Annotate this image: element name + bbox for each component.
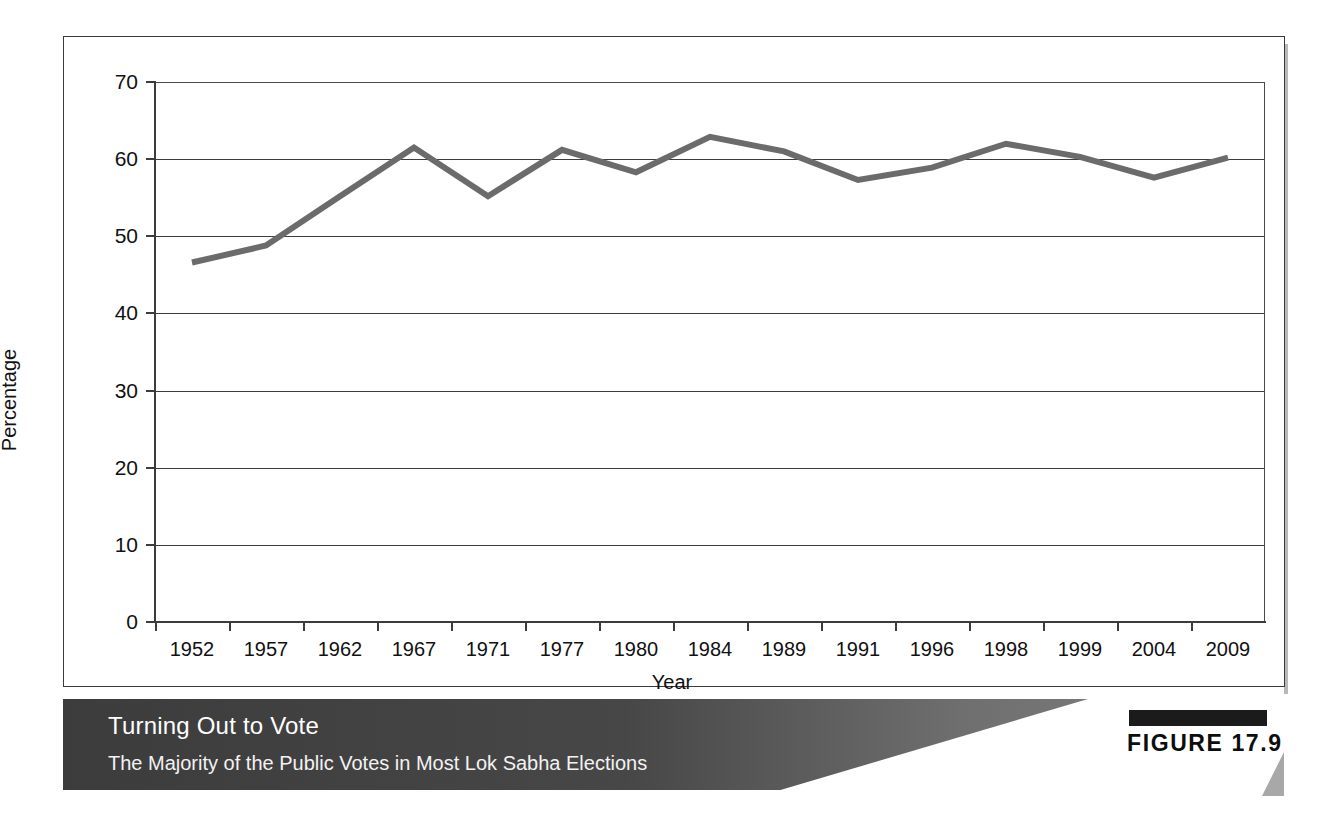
x-axis-tick-label: 1957 <box>226 638 306 661</box>
x-axis-tick-label: 1984 <box>670 638 750 661</box>
y-axis-tick-label: 0 <box>78 611 138 632</box>
y-axis-tick-label: 20 <box>78 457 138 478</box>
y-axis-tick <box>146 467 155 469</box>
figure-tag-shadow <box>1262 752 1284 796</box>
x-axis-tick <box>969 622 971 631</box>
x-axis-tick <box>155 622 157 631</box>
y-axis-tick <box>146 81 155 83</box>
caption-title: Turning Out to Vote <box>108 712 319 740</box>
y-axis-tick-label: 70 <box>78 71 138 92</box>
x-axis-tick <box>451 622 453 631</box>
x-axis-tick-label: 1996 <box>892 638 972 661</box>
x-axis-tick-label: 1971 <box>448 638 528 661</box>
x-axis-tick <box>525 622 527 631</box>
x-axis-tick <box>821 622 823 631</box>
x-axis-tick-label: 1998 <box>966 638 1046 661</box>
x-axis-tick <box>895 622 897 631</box>
x-axis-tick-label: 1980 <box>596 638 676 661</box>
x-axis-tick-label: 1977 <box>522 638 602 661</box>
gridline <box>156 313 1264 314</box>
caption-subtitle: The Majority of the Public Votes in Most… <box>108 752 647 775</box>
x-axis-tick-label: 2009 <box>1188 638 1268 661</box>
x-axis-tick <box>303 622 305 631</box>
y-axis-tick <box>146 544 155 546</box>
x-axis-tick-label: 1989 <box>744 638 824 661</box>
plot-area <box>155 82 1265 622</box>
figure-tag-label: FIGURE 17.9 <box>1127 730 1283 757</box>
y-axis-tick <box>146 390 155 392</box>
y-axis-tick-label: 50 <box>78 225 138 246</box>
y-axis-tick <box>146 235 155 237</box>
gridline <box>156 236 1264 237</box>
gridline <box>156 159 1264 160</box>
x-axis-tick <box>747 622 749 631</box>
y-axis-tick <box>146 312 155 314</box>
y-axis-tick-label: 30 <box>78 380 138 401</box>
figure-tag-bar <box>1129 710 1267 726</box>
figure-page: 010203040506070 Percentage 1952195719621… <box>0 0 1344 823</box>
y-axis-tick <box>146 158 155 160</box>
x-axis-title: Year <box>0 671 1344 694</box>
x-axis-tick <box>1043 622 1045 631</box>
y-axis-line <box>154 81 156 623</box>
gridline <box>156 545 1264 546</box>
gridline <box>156 391 1264 392</box>
y-axis-tick-label: 10 <box>78 534 138 555</box>
x-axis-tick <box>599 622 601 631</box>
x-axis-tick-label: 1991 <box>818 638 898 661</box>
x-axis-tick-label: 1962 <box>300 638 380 661</box>
x-axis-tick-label: 1967 <box>374 638 454 661</box>
x-axis-line <box>154 621 1266 623</box>
x-axis-tick-label: 2004 <box>1114 638 1194 661</box>
x-axis-tick <box>377 622 379 631</box>
x-axis-tick <box>673 622 675 631</box>
x-axis-tick <box>1191 622 1193 631</box>
x-axis-tick <box>1117 622 1119 631</box>
y-axis-title: Percentage <box>0 300 21 500</box>
x-axis-tick-label: 1999 <box>1040 638 1120 661</box>
x-axis-tick-label: 1952 <box>152 638 232 661</box>
y-axis-tick-label: 60 <box>78 148 138 169</box>
gridline <box>156 468 1264 469</box>
x-axis-tick <box>229 622 231 631</box>
y-axis-tick-label: 40 <box>78 302 138 323</box>
